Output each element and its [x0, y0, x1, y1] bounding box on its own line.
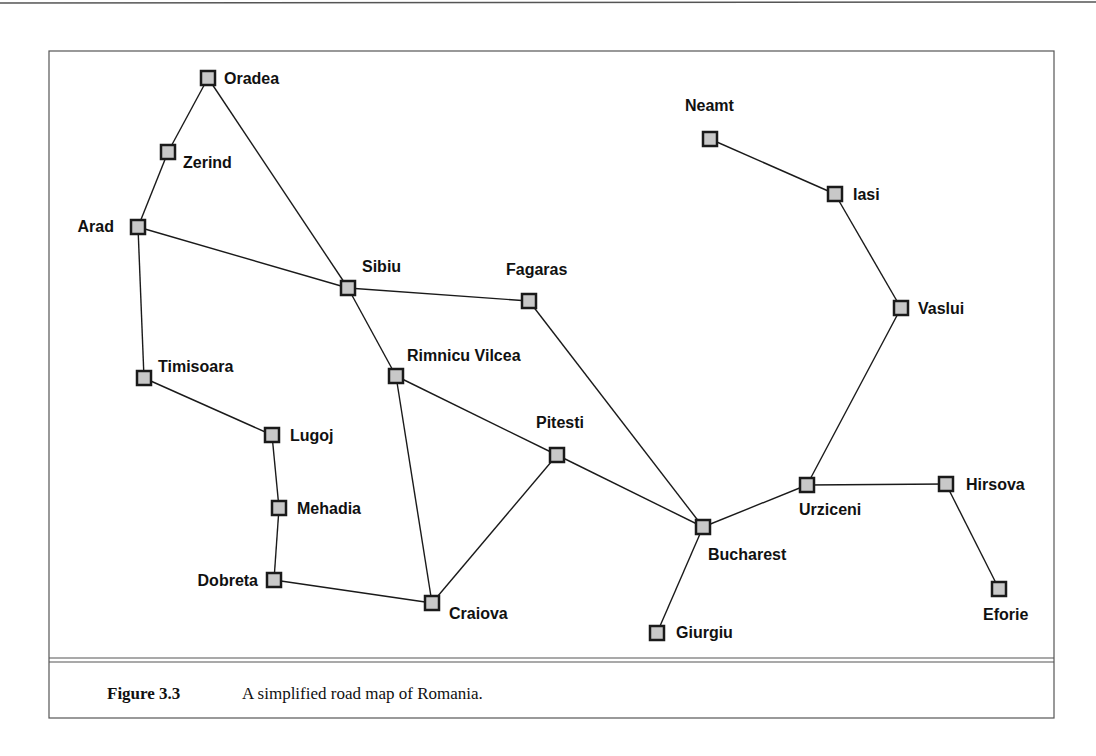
- city-label-lugoj: Lugoj: [290, 427, 334, 444]
- city-label-fagaras: Fagaras: [506, 261, 567, 278]
- road-iasi-neamt: [710, 139, 835, 194]
- city-node-iasi: [828, 187, 842, 201]
- city-label-dobreta: Dobreta: [198, 572, 259, 589]
- road-sibiu-fagaras: [348, 288, 529, 301]
- city-label-neamt: Neamt: [685, 97, 735, 114]
- road-timisoara-lugoj: [144, 378, 272, 435]
- city-node-hirsova: [939, 477, 953, 491]
- city-label-eforie: Eforie: [983, 606, 1028, 623]
- road-arad-sibiu: [138, 227, 348, 288]
- city-node-rimnicu-vilcea: [389, 369, 403, 383]
- road-oradea-sibiu: [208, 78, 348, 288]
- road-oradea-zerind: [168, 78, 208, 152]
- city-label-arad: Arad: [78, 218, 114, 235]
- city-node-zerind: [161, 145, 175, 159]
- city-label-bucharest: Bucharest: [708, 546, 787, 563]
- city-node-dobreta: [267, 573, 281, 587]
- figure-number: Figure 3.3: [107, 684, 180, 703]
- road-edges: [138, 78, 999, 633]
- city-node-arad: [131, 220, 145, 234]
- city-node-vaslui: [894, 301, 908, 315]
- road-bucharest-giurgiu: [657, 527, 703, 633]
- road-hirsova-eforie: [946, 484, 999, 589]
- city-node-pitesti: [550, 448, 564, 462]
- road-rimnicu-vilcea-craiova: [396, 376, 432, 603]
- figure-caption: A simplified road map of Romania.: [242, 684, 483, 703]
- road-vaslui-iasi: [835, 194, 901, 308]
- top-rule: [0, 2, 1096, 3]
- road-urziceni-hirsova: [807, 484, 946, 485]
- road-sibiu-rimnicu-vilcea: [348, 288, 396, 376]
- city-label-rimnicu-vilcea: Rimnicu Vilcea: [407, 347, 521, 364]
- city-label-craiova: Craiova: [449, 605, 508, 622]
- city-label-vaslui: Vaslui: [918, 300, 964, 317]
- city-node-oradea: [201, 71, 215, 85]
- city-node-timisoara: [137, 371, 151, 385]
- city-label-hirsova: Hirsova: [966, 476, 1025, 493]
- city-label-iasi: Iasi: [853, 186, 880, 203]
- road-mehadia-dobreta: [274, 508, 279, 580]
- city-node-mehadia: [272, 501, 286, 515]
- city-node-lugoj: [265, 428, 279, 442]
- road-pitesti-bucharest: [557, 455, 703, 527]
- city-label-giurgiu: Giurgiu: [676, 624, 733, 641]
- city-label-urziceni: Urziceni: [799, 501, 861, 518]
- city-node-sibiu: [341, 281, 355, 295]
- road-zerind-arad: [138, 152, 168, 227]
- road-rimnicu-vilcea-pitesti: [396, 376, 557, 455]
- city-label-zerind: Zerind: [183, 154, 232, 171]
- city-label-mehadia: Mehadia: [297, 500, 361, 517]
- city-label-pitesti: Pitesti: [536, 414, 584, 431]
- city-node-craiova: [425, 596, 439, 610]
- figure-frame: [49, 51, 1054, 718]
- city-node-fagaras: [522, 294, 536, 308]
- city-node-eforie: [992, 582, 1006, 596]
- city-node-neamt: [703, 132, 717, 146]
- city-nodes: OradeaZerindAradTimisoaraLugojMehadiaDob…: [78, 70, 1029, 641]
- road-bucharest-urziceni: [703, 485, 807, 527]
- city-node-giurgiu: [650, 626, 664, 640]
- city-node-urziceni: [800, 478, 814, 492]
- road-lugoj-mehadia: [272, 435, 279, 508]
- city-label-sibiu: Sibiu: [362, 258, 401, 275]
- romania-road-map: OradeaZerindAradTimisoaraLugojMehadiaDob…: [0, 0, 1096, 756]
- city-node-bucharest: [696, 520, 710, 534]
- city-label-timisoara: Timisoara: [158, 358, 233, 375]
- road-arad-timisoara: [138, 227, 144, 378]
- road-craiova-pitesti: [432, 455, 557, 603]
- city-label-oradea: Oradea: [224, 70, 279, 87]
- road-urziceni-vaslui: [807, 308, 901, 485]
- road-dobreta-craiova: [274, 580, 432, 603]
